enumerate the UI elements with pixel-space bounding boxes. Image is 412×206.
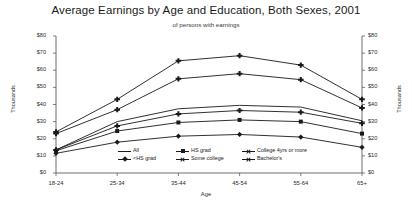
chart-legend: AllHS gradCollege 4yrs or more<HS gradSo… bbox=[118, 147, 308, 163]
legend-entry[interactable]: <HS grad bbox=[118, 155, 176, 163]
legend-marker-icon bbox=[176, 156, 189, 163]
legend-entry[interactable]: Some college bbox=[176, 155, 242, 163]
legend-label: <HS grad bbox=[133, 156, 156, 161]
data-series-layer bbox=[53, 53, 365, 156]
legend-entry[interactable]: HS grad bbox=[176, 147, 242, 155]
legend-marker-icon bbox=[118, 156, 131, 163]
legend-marker-icon bbox=[242, 156, 255, 163]
data-series bbox=[53, 108, 365, 153]
legend-marker-icon bbox=[118, 148, 131, 155]
legend-label: College 4yrs or more bbox=[257, 148, 307, 153]
data-series bbox=[53, 71, 365, 136]
chart-container: Average Earnings by Age and Education, B… bbox=[0, 0, 412, 206]
legend-entry[interactable]: College 4yrs or more bbox=[242, 147, 308, 155]
legend-marker-icon bbox=[242, 148, 255, 155]
legend-label: All bbox=[133, 148, 139, 153]
legend-entry[interactable]: All bbox=[118, 147, 176, 155]
legend-marker-icon bbox=[176, 148, 189, 155]
legend-label: Bachelor's bbox=[257, 156, 282, 161]
legend-label: Some college bbox=[191, 156, 224, 161]
legend-entry[interactable]: Bachelor's bbox=[242, 155, 308, 163]
plot-area bbox=[0, 0, 412, 206]
legend-label: HS grad bbox=[191, 148, 211, 153]
data-series bbox=[53, 53, 365, 134]
